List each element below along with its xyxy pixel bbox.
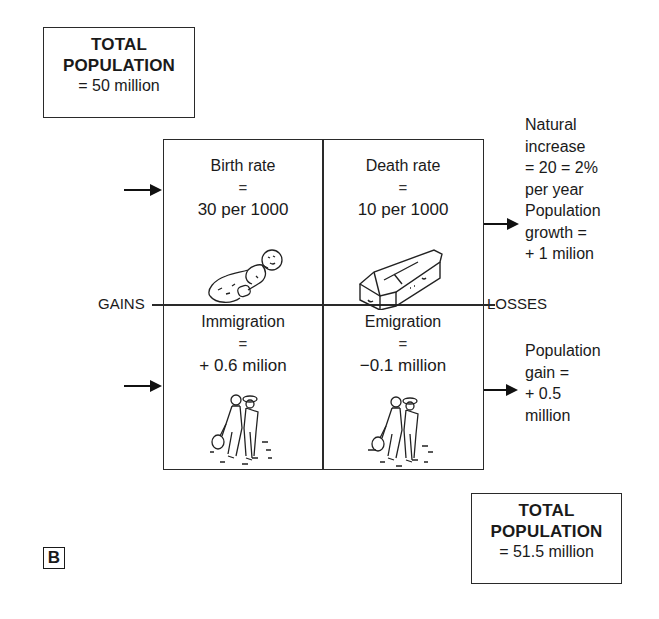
arrow-out-migration-icon [484, 389, 516, 391]
note-line: = 20 = 2% [525, 157, 655, 179]
note-line: Population [525, 200, 655, 222]
death-rate-value: 10 per 1000 [324, 200, 482, 220]
note-line: per year [525, 179, 655, 201]
note-line: + 1 milion [525, 243, 655, 265]
population-gain-note: Population gain = + 0.5 million [525, 340, 655, 426]
cell-immigration: Immigration = + 0.6 milion [164, 312, 322, 376]
start-total-title-line2: POPULATION [44, 55, 194, 76]
note-line: gain = [525, 362, 655, 384]
end-total-population-box: TOTAL POPULATION = 51.5 million [471, 493, 622, 584]
panel-label: B [43, 547, 65, 569]
arrow-in-migration-icon [124, 385, 160, 387]
start-total-population-box: TOTAL POPULATION = 50 million [43, 27, 195, 118]
cell-emigration: Emigration = −0.1 million [324, 312, 482, 376]
end-total-value: = 51.5 million [472, 542, 621, 562]
birth-rate-label: Birth rate [164, 156, 322, 176]
losses-label: LOSSES [487, 295, 547, 313]
end-total-title-line1: TOTAL [472, 500, 621, 521]
arrow-out-natural-icon [484, 223, 517, 225]
immigration-label: Immigration [164, 312, 322, 332]
birth-rate-value: 30 per 1000 [164, 200, 322, 220]
start-total-title-line1: TOTAL [44, 34, 194, 55]
migrants-icon [206, 392, 282, 468]
note-line: increase [525, 136, 655, 158]
note-line: million [525, 405, 655, 427]
death-rate-label: Death rate [324, 156, 482, 176]
arrow-in-natural-icon [124, 189, 160, 191]
birth-rate-equals: = [164, 178, 322, 198]
emigration-equals: = [324, 334, 482, 354]
emigration-label: Emigration [324, 312, 482, 332]
start-total-value: = 50 million [44, 76, 194, 96]
immigration-value: + 0.6 milion [164, 356, 322, 376]
population-change-grid: Birth rate = 30 per 1000 Death rate = 10… [163, 139, 484, 470]
gains-label: GAINS [98, 295, 145, 313]
emigration-value: −0.1 million [324, 356, 482, 376]
death-rate-equals: = [324, 178, 482, 198]
cell-death-rate: Death rate = 10 per 1000 [324, 156, 482, 220]
baby-icon [202, 246, 286, 308]
migrants-icon [366, 394, 442, 470]
coffin-icon [356, 244, 446, 310]
end-total-title-line2: POPULATION [472, 521, 621, 542]
note-line: Population [525, 340, 655, 362]
note-line: + 0.5 [525, 383, 655, 405]
cell-birth-rate: Birth rate = 30 per 1000 [164, 156, 322, 220]
note-line: growth = [525, 222, 655, 244]
immigration-equals: = [164, 334, 322, 354]
natural-increase-note: Natural increase = 20 = 2% per year Popu… [525, 114, 655, 265]
note-line: Natural [525, 114, 655, 136]
